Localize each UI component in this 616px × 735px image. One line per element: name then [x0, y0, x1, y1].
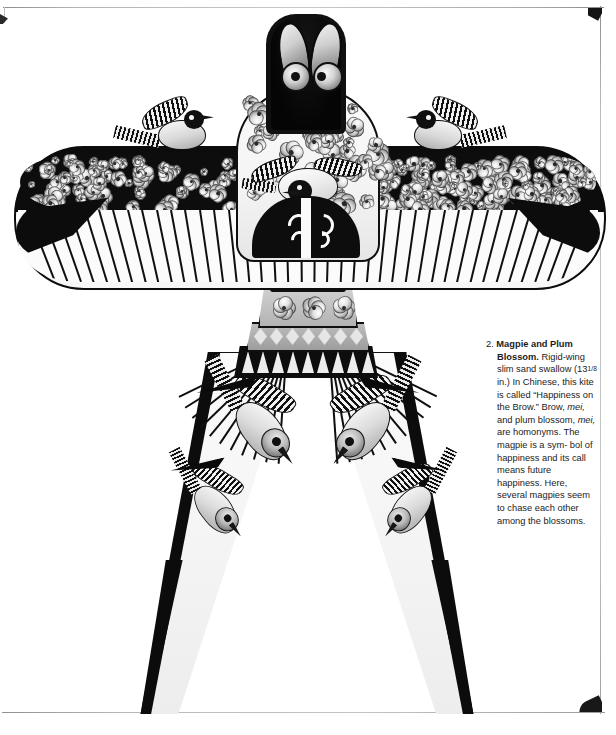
wing-feather-barb	[430, 210, 446, 282]
wing-magpie-left	[128, 104, 228, 164]
caption-line-12: happiness. Here,	[497, 478, 567, 488]
skirt-tile	[254, 328, 267, 345]
plum-blossom	[346, 102, 359, 115]
head-pupil-left	[291, 72, 300, 81]
caption-line-14: to chase each other	[497, 503, 579, 513]
head-pupil-right	[317, 72, 326, 81]
skirt-tile	[318, 328, 331, 345]
kite-skirt-flower-band	[258, 288, 358, 328]
plum-blossom	[92, 176, 107, 191]
scanned-book-page: 2. Magpie and Plum Blossom. Rigid-wing s…	[0, 0, 616, 735]
skirt-tile	[334, 328, 347, 345]
caption-measure-post: in.) In Chinese,	[497, 377, 560, 387]
caption-term-mei-1: mei,	[567, 402, 585, 412]
plum-blossom	[43, 164, 54, 175]
skirt-tile	[350, 328, 363, 345]
caption-line-2: slim sand swallow	[497, 364, 571, 374]
caption-line-7: and plum blossom,	[497, 415, 575, 425]
skirt-triangle	[242, 351, 254, 373]
wing-feather-barb	[199, 210, 212, 282]
skirt-triangle	[302, 351, 314, 373]
plum-blossom	[331, 295, 358, 322]
caption-line-6-pre: Brow.” Brow,	[513, 402, 565, 412]
plum-blossom	[28, 181, 36, 189]
caption-line-8-post: are homonyms.	[497, 427, 561, 437]
plum-blossom	[124, 179, 133, 188]
caption-line-15: among the blossoms.	[497, 516, 585, 526]
wing-feather-barb	[417, 210, 431, 282]
caption-line-13: several magpies seem	[497, 490, 590, 500]
plum-blossom	[272, 296, 296, 320]
skirt-triangle	[347, 351, 359, 373]
wing-feather-barb	[404, 210, 417, 282]
skirt-tile	[302, 328, 315, 345]
skirt-triangle	[362, 351, 374, 373]
skirt-triangle	[332, 351, 344, 373]
caption-term-mei-2: mei,	[578, 415, 596, 425]
wing-feather-barb	[170, 210, 186, 282]
wing-feather-barb	[184, 210, 198, 282]
plum-blossom	[321, 133, 336, 148]
caption-number: 2.	[486, 339, 494, 349]
plum-blossom	[198, 166, 209, 177]
caption-measure-pre: (13	[574, 364, 587, 374]
skirt-tile	[270, 328, 283, 345]
skirt-triangle	[257, 351, 269, 373]
wing-feather-barb	[391, 210, 402, 282]
skirt-triangle	[317, 351, 329, 373]
wing-magpie-right	[392, 104, 492, 164]
wing-feather-barb	[98, 210, 121, 282]
caption-measure-fraction: 1/8	[587, 365, 596, 372]
plum-blossom	[297, 291, 331, 325]
skirt-tile	[286, 328, 299, 345]
wing-feather-barb	[84, 210, 108, 282]
wing-feather-barb	[508, 210, 532, 282]
plum-blossom	[492, 187, 510, 205]
figure-caption: 2. Magpie and Plum Blossom. Rigid-wing s…	[486, 338, 598, 527]
skirt-triangle	[272, 351, 284, 373]
skirt-triangle	[287, 351, 299, 373]
wing-feather-barb	[213, 210, 224, 282]
caption-line-1: Rigid-wing	[541, 352, 584, 362]
wing-feather-barb	[156, 210, 173, 282]
